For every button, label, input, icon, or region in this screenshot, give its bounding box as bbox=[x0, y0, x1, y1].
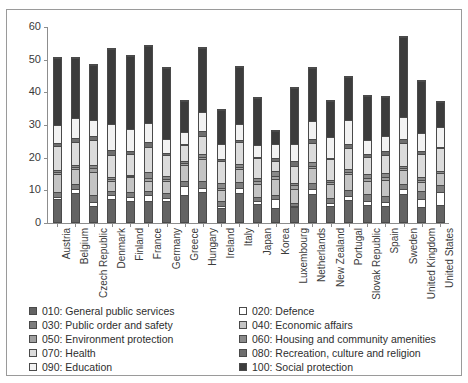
bar-slot[interactable] bbox=[176, 27, 194, 223]
x-axis-label-slot: Belgium bbox=[66, 226, 84, 300]
bar-segment bbox=[291, 166, 298, 183]
bar-segment bbox=[145, 123, 152, 143]
bar-segment bbox=[218, 110, 225, 144]
bar-slot[interactable] bbox=[212, 27, 230, 223]
y-axis-tick-label: 50 bbox=[29, 53, 41, 65]
bar-segment bbox=[163, 155, 170, 176]
bar-segment bbox=[345, 77, 352, 120]
bar-slot[interactable] bbox=[431, 27, 449, 223]
bar-slot[interactable] bbox=[230, 27, 248, 223]
stacked-bar[interactable] bbox=[326, 100, 335, 223]
bar-slot[interactable] bbox=[84, 27, 102, 223]
stacked-bar[interactable] bbox=[71, 57, 80, 223]
legend-item[interactable]: 010: General public services bbox=[29, 304, 239, 318]
bar-slot[interactable] bbox=[322, 27, 340, 223]
stacked-bar[interactable] bbox=[107, 48, 116, 223]
bar-segment bbox=[400, 37, 407, 117]
legend-item[interactable]: 040: Economic affairs bbox=[239, 318, 449, 332]
stacked-bar[interactable] bbox=[308, 67, 317, 223]
bar-slot[interactable] bbox=[194, 27, 212, 223]
stacked-bar[interactable] bbox=[271, 130, 280, 223]
legend-item[interactable]: 020: Defence bbox=[239, 304, 449, 318]
x-axis-line bbox=[47, 223, 449, 224]
stacked-bar[interactable] bbox=[436, 101, 445, 223]
bar-segment bbox=[54, 146, 61, 170]
bar-segment bbox=[236, 169, 243, 182]
bar-segment bbox=[364, 157, 371, 175]
legend-item[interactable]: 080: Recreation, culture and religion bbox=[239, 346, 449, 360]
stacked-bar[interactable] bbox=[235, 66, 244, 223]
stacked-bar[interactable] bbox=[253, 97, 262, 223]
stacked-bar[interactable] bbox=[417, 80, 426, 223]
bar-segment bbox=[382, 206, 389, 222]
bar-slot[interactable] bbox=[48, 27, 66, 223]
bar-slot[interactable] bbox=[394, 27, 412, 223]
bar-slot[interactable] bbox=[121, 27, 139, 223]
bar-segment bbox=[163, 181, 170, 192]
x-axis-label-slot: Germany bbox=[157, 226, 175, 300]
bar-slot[interactable] bbox=[139, 27, 157, 223]
y-axis-tick-label: 10 bbox=[29, 183, 41, 195]
legend-item[interactable]: 070: Health bbox=[29, 346, 239, 360]
bar-segment bbox=[272, 144, 279, 159]
stacked-bar[interactable] bbox=[290, 87, 299, 223]
bar-segment bbox=[108, 181, 115, 192]
bar-slot[interactable] bbox=[376, 27, 394, 223]
stacked-bar[interactable] bbox=[399, 36, 408, 223]
stacked-bar[interactable] bbox=[363, 95, 372, 223]
stacked-bar[interactable] bbox=[53, 57, 62, 223]
bar-slot[interactable] bbox=[358, 27, 376, 223]
legend-item[interactable]: 050: Environment protection bbox=[29, 332, 239, 346]
bar-slot[interactable] bbox=[413, 27, 431, 223]
bar-segment bbox=[127, 154, 134, 175]
bar-segment bbox=[199, 181, 206, 188]
bar-slot[interactable] bbox=[249, 27, 267, 223]
y-axis-tick-label: 60 bbox=[29, 20, 41, 32]
bar-slot[interactable] bbox=[267, 27, 285, 223]
bars-container bbox=[48, 27, 449, 223]
legend-label: 020: Defence bbox=[252, 305, 314, 317]
bar-segment bbox=[345, 200, 352, 222]
legend-item[interactable]: 060: Housing and community amenities bbox=[239, 332, 449, 346]
stacked-bar[interactable] bbox=[144, 45, 153, 223]
legend-item[interactable]: 100: Social protection bbox=[239, 360, 449, 374]
x-axis-label-slot: Netherlands bbox=[303, 226, 321, 300]
bar-slot[interactable] bbox=[66, 27, 84, 223]
stacked-bar[interactable] bbox=[126, 55, 135, 223]
legend-swatch bbox=[29, 307, 37, 315]
bar-segment bbox=[90, 195, 97, 202]
bar-segment bbox=[127, 177, 134, 192]
legend-item[interactable]: 030: Public order and safety bbox=[29, 318, 239, 332]
y-axis-tick: 10 bbox=[7, 190, 48, 191]
bar-slot[interactable] bbox=[303, 27, 321, 223]
stacked-bar[interactable] bbox=[381, 96, 390, 223]
bar-segment bbox=[108, 49, 115, 124]
y-axis-tick-label: 30 bbox=[29, 118, 41, 130]
bar-slot[interactable] bbox=[285, 27, 303, 223]
bar-slot[interactable] bbox=[157, 27, 175, 223]
bar-segment bbox=[108, 199, 115, 222]
bar-segment bbox=[181, 186, 188, 195]
legend-label: 070: Health bbox=[42, 347, 96, 359]
bar-slot[interactable] bbox=[103, 27, 121, 223]
legend-item[interactable]: 090: Education bbox=[29, 360, 239, 374]
bar-segment bbox=[72, 118, 79, 138]
x-axis-label-slot: United Kingdom bbox=[413, 226, 431, 300]
bar-segment bbox=[54, 58, 61, 125]
legend-column-left: 010: General public services030: Public … bbox=[29, 304, 239, 374]
stacked-bar[interactable] bbox=[198, 47, 207, 223]
stacked-bar[interactable] bbox=[344, 76, 353, 223]
bar-segment bbox=[418, 182, 425, 191]
legend-swatch bbox=[239, 307, 247, 315]
legend-label: 090: Education bbox=[42, 361, 112, 373]
stacked-bar[interactable] bbox=[89, 64, 98, 223]
stacked-bar[interactable] bbox=[180, 100, 189, 223]
bar-segment bbox=[181, 132, 188, 144]
bar-slot[interactable] bbox=[340, 27, 358, 223]
bar-segment bbox=[382, 136, 389, 150]
bar-segment bbox=[90, 172, 97, 195]
stacked-bar[interactable] bbox=[217, 109, 226, 223]
bar-segment bbox=[145, 201, 152, 222]
y-axis-tick-label: 20 bbox=[29, 151, 41, 163]
stacked-bar[interactable] bbox=[162, 67, 171, 223]
